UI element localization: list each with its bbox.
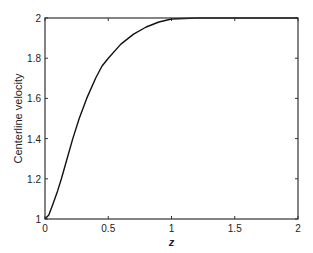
y-tick-label: 1.8	[27, 53, 41, 64]
x-tick-label: 1	[169, 223, 175, 234]
y-axis-label: Centerline velocity	[12, 73, 24, 163]
x-tick-label: 2	[295, 223, 301, 234]
x-axis-ticks: 00.511.52	[42, 18, 301, 234]
y-tick-label: 1.4	[27, 134, 41, 145]
x-tick-label: 0	[42, 223, 48, 234]
chart: 00.511.52 11.21.41.61.82 z Centerline ve…	[0, 0, 313, 253]
x-tick-label: 1.5	[228, 223, 242, 234]
x-tick-label: 0.5	[101, 223, 115, 234]
y-tick-label: 1.6	[27, 93, 41, 104]
y-tick-label: 1.2	[27, 174, 41, 185]
x-axis-label: z	[168, 236, 175, 248]
y-tick-label: 1	[35, 214, 41, 225]
centerline-velocity-curve	[45, 18, 298, 219]
axes-frame	[45, 18, 298, 219]
y-axis-ticks: 11.21.41.61.82	[27, 13, 298, 225]
y-tick-label: 2	[35, 13, 41, 24]
